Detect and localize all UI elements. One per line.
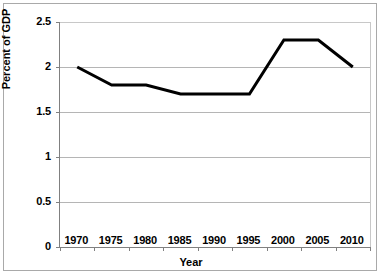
x-axis-tick-label: 2000 (266, 234, 300, 246)
y-axis-tick-label: 0.5 (4, 195, 51, 207)
series-line-percent-of-gdp (60, 22, 371, 248)
y-axis-tick-label: 1 (4, 150, 51, 162)
x-axis-tick-label: 1990 (197, 234, 231, 246)
y-axis-tick-label: 2 (4, 60, 51, 72)
x-axis-tick-label: 2010 (335, 234, 369, 246)
x-axis-title: Year (4, 256, 378, 268)
x-axis-tick-label: 2005 (300, 234, 334, 246)
y-axis-tick-label: 1.5 (4, 105, 51, 117)
chart-frame: Percent of GDP 00.511.522.5 197019751980… (3, 3, 377, 271)
x-axis-tick-label: 1985 (162, 234, 196, 246)
x-axis-tick-label: 1975 (93, 234, 127, 246)
x-axis-tick-label: 1970 (59, 234, 93, 246)
x-axis-tick-label: 1980 (128, 234, 162, 246)
y-axis-tick-label: 0 (4, 240, 51, 252)
plot-area (59, 22, 371, 248)
y-axis-tick-label: 2.5 (4, 15, 51, 27)
x-axis-tick-label: 1995 (231, 234, 265, 246)
